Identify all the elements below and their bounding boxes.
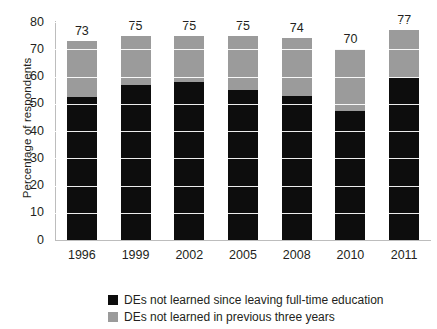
y-tick-label-70: 70 (0, 43, 44, 56)
bar-group-2008[interactable] (282, 38, 312, 240)
gridline-80 (55, 22, 431, 23)
bar-segment-black-2008[interactable] (282, 96, 312, 240)
x-axis-line (55, 240, 431, 241)
x-tick-label-2008: 2008 (270, 248, 324, 262)
y-tick-label-10: 10 (0, 206, 44, 219)
x-tick-label-2002: 2002 (162, 248, 216, 262)
bar-group-2011[interactable] (389, 30, 419, 240)
bar-value-label-2010: 70 (330, 33, 370, 46)
gridline-70 (55, 49, 431, 50)
bar-segment-black-1999[interactable] (121, 85, 151, 240)
y-tick-label-50: 50 (0, 97, 44, 110)
y-axis-tick-labels: 01020304050607080 (0, 0, 50, 329)
x-tick-label-1999: 1999 (109, 248, 163, 262)
bar-segment-gray-2008[interactable] (282, 38, 312, 95)
legend-label-1: DEs not learned in previous three years (124, 310, 335, 324)
x-tick-label-2010: 2010 (323, 248, 377, 262)
gridline-30 (55, 158, 431, 159)
legend-item-1[interactable]: DEs not learned in previous three years (108, 308, 437, 325)
bar-group-2010[interactable] (335, 49, 365, 240)
x-tick-label-2005: 2005 (216, 248, 270, 262)
bar-group-1996[interactable] (67, 41, 97, 240)
bars-layer: 73757575747077 (55, 22, 431, 240)
bar-value-label-2008: 74 (277, 22, 317, 35)
y-tick-label-60: 60 (0, 70, 44, 83)
bar-segment-gray-2002[interactable] (174, 36, 204, 82)
x-axis-tick-labels: 1996199920022005200820102011 (55, 248, 431, 268)
y-tick-label-40: 40 (0, 125, 44, 138)
bar-segment-gray-2011[interactable] (389, 30, 419, 78)
bar-segment-black-1996[interactable] (67, 97, 97, 240)
bar-segment-black-2002[interactable] (174, 82, 204, 240)
gridline-10 (55, 213, 431, 214)
gridline-50 (55, 104, 431, 105)
legend-swatch-gray (108, 312, 118, 322)
legend-swatch-black (108, 295, 118, 305)
y-tick-label-20: 20 (0, 179, 44, 192)
x-tick-label-2011: 2011 (377, 248, 431, 262)
y-tick-label-0: 0 (0, 234, 44, 247)
gridline-20 (55, 186, 431, 187)
bar-segment-gray-2010[interactable] (335, 49, 365, 110)
bar-value-label-2011: 77 (384, 14, 424, 27)
bar-group-2002[interactable] (174, 36, 204, 240)
y-tick-label-30: 30 (0, 152, 44, 165)
bar-segment-gray-2005[interactable] (228, 36, 258, 91)
legend-item-0[interactable]: DEs not learned since leaving full-time … (108, 291, 437, 308)
y-tick-label-80: 80 (0, 16, 44, 29)
chart-legend: DEs not learned since leaving full-time … (108, 291, 437, 325)
bar-segment-black-2010[interactable] (335, 111, 365, 240)
bar-group-2005[interactable] (228, 36, 258, 240)
bar-value-label-1996: 73 (62, 25, 102, 38)
bar-segment-black-2005[interactable] (228, 90, 258, 240)
gridline-60 (55, 77, 431, 78)
x-tick-label-1996: 1996 (55, 248, 109, 262)
gridline-40 (55, 131, 431, 132)
bar-group-1999[interactable] (121, 36, 151, 240)
stacked-bar-chart: Percentage of respondents 01020304050607… (0, 0, 437, 329)
legend-label-0: DEs not learned since leaving full-time … (124, 293, 383, 307)
